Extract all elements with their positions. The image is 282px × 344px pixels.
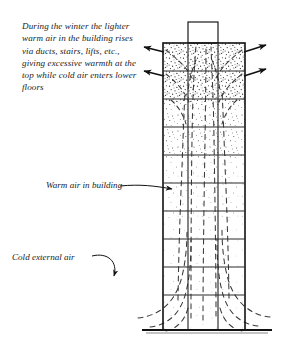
ground-line [142, 330, 272, 333]
arrow-out-right-lower [244, 69, 266, 76]
figure-canvas: During the winter the lighter warm air i… [0, 0, 282, 344]
label-cold-external-air: Cold external air [12, 252, 75, 263]
figure-caption: During the winter the lighter warm air i… [22, 20, 142, 94]
cold-air-leader-line [92, 255, 115, 276]
label-warm-air-in-building: Warm air in building [46, 180, 122, 191]
arrow-out-left-lower [144, 71, 164, 76]
arrow-out-left-upper [144, 47, 164, 52]
roof-penthouse [188, 22, 218, 43]
arrow-out-right-upper [244, 45, 266, 52]
